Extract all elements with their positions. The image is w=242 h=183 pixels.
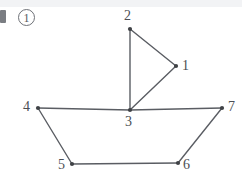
graph-node-label-1: 1 xyxy=(182,59,189,73)
graph-node-1 xyxy=(174,64,178,68)
graph-node-label-5: 5 xyxy=(58,158,65,172)
graph-node-label-7: 7 xyxy=(228,100,235,114)
graph-edge-2-1 xyxy=(130,29,176,66)
graph-edge-5-6 xyxy=(72,163,178,164)
graph-node-3 xyxy=(128,108,132,112)
graph-edge-1-3 xyxy=(130,66,176,110)
graph-node-label-2: 2 xyxy=(124,9,131,23)
graph-edge-3-7 xyxy=(130,108,222,110)
graph-node-label-3: 3 xyxy=(125,115,132,129)
graph-node-4 xyxy=(36,106,40,110)
graph-node-5 xyxy=(70,162,74,166)
graph-node-7 xyxy=(220,106,224,110)
graph-edge-4-5 xyxy=(38,108,72,164)
diagram-page: 1 1234567 xyxy=(0,0,242,183)
graph-edge-6-7 xyxy=(178,108,222,163)
graph-node-label-4: 4 xyxy=(23,100,30,114)
graph-node-label-6: 6 xyxy=(183,158,190,172)
graph-node-6 xyxy=(176,161,180,165)
graph-edge-4-3 xyxy=(38,108,130,110)
graph-drawing xyxy=(0,0,242,183)
graph-node-2 xyxy=(128,27,132,31)
